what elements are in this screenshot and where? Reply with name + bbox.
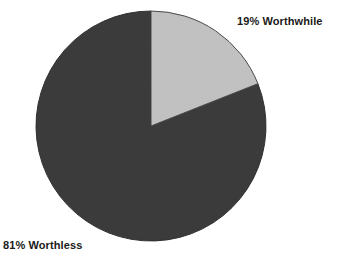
pie-chart-graphic — [0, 0, 349, 271]
pie-label-worthless: 81% Worthless — [3, 239, 82, 252]
pie-label-worthwhile: 19% Worthwhile — [237, 15, 323, 28]
pie-chart: 19% Worthwhile 81% Worthless — [0, 0, 349, 271]
